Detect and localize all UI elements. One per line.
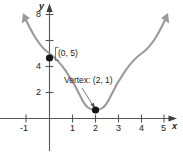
y-axis (46, 4, 52, 152)
parabola-curve (22, 13, 169, 110)
y-tick-label-8: 8 (36, 10, 41, 19)
x-tick-label-neg1: -1 (20, 124, 28, 133)
y-tick-label-2: 2 (36, 88, 41, 97)
x-tick-label-2: 2 (93, 124, 98, 133)
vertex-annotation-label: Vertex: (2, 1) (64, 76, 113, 85)
x-tick-label-1: 1 (70, 124, 75, 133)
x-tick-label-3: 3 (116, 124, 121, 133)
point-0-5 (46, 54, 53, 61)
point-vertex (92, 106, 99, 113)
x-axis-label: x (172, 122, 177, 131)
point-label-0-5: (0, 5) (58, 49, 78, 58)
parabola-graph-figure: y x 8 4 2 -1 1 2 3 4 5 (0, 5) Vertex: (2… (0, 0, 183, 151)
x-tick-label-5: 5 (161, 124, 166, 133)
x-tick-label-4: 4 (139, 124, 144, 133)
y-tick-label-4: 4 (36, 62, 41, 71)
